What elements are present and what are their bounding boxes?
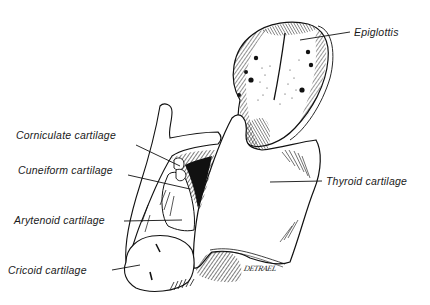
- label-corniculate-cartilage: Corniculate cartilage: [16, 130, 116, 141]
- label-cuneiform-cartilage: Cuneiform cartilage: [18, 165, 113, 176]
- label-thyroid-cartilage: Thyroid cartilage: [326, 176, 407, 187]
- larynx-illustration: [0, 0, 430, 305]
- label-cricoid-cartilage: Cricoid cartilage: [8, 265, 87, 276]
- label-epiglottis: Epiglottis: [354, 27, 399, 38]
- epiglottis-shape: [233, 22, 333, 150]
- artist-signature: DETRAEL: [243, 264, 277, 273]
- label-arytenoid-cartilage: Arytenoid cartilage: [14, 215, 105, 226]
